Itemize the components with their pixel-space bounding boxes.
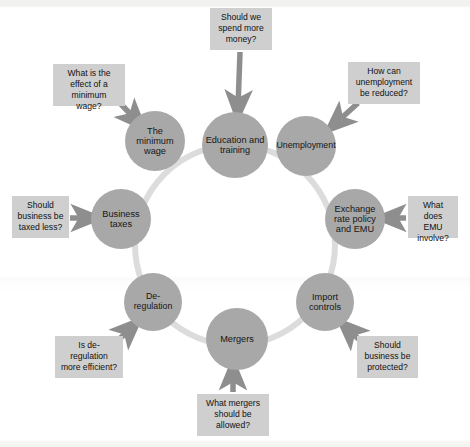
node-mergers[interactable]: Mergers: [206, 308, 268, 370]
question-box-de-regulation-efficient[interactable]: Is de-regulation more efficient?: [55, 336, 123, 378]
policy-cycle-diagram: Education and training Unemployment Exch…: [0, 0, 470, 447]
node-de-regulation[interactable]: De-regulation: [124, 273, 182, 331]
node-label-the-minimum-wage: The minimum wage: [125, 126, 185, 157]
node-label-mergers: Mergers: [217, 334, 257, 344]
node-label-business-taxes: Business taxes: [91, 209, 151, 230]
node-exchange-rate-policy-and-emu[interactable]: Exchange rate policy and EMU: [325, 189, 385, 249]
question-text-spend-more-money: Should we spend more money?: [218, 12, 263, 44]
question-box-reduce-unemployment[interactable]: How can unemployment be reduced?: [348, 62, 420, 104]
node-education-and-training[interactable]: Education and training: [202, 112, 268, 178]
question-text-effect-of-minimum-wage: What is the effect of a minimum wage?: [68, 68, 111, 111]
question-text-business-taxed-less: Should business be taxed less?: [18, 200, 64, 232]
node-unemployment[interactable]: Unemployment: [276, 116, 336, 176]
question-box-emu-involve[interactable]: What does EMU involve?: [408, 196, 458, 238]
node-label-unemployment: Unemployment: [273, 141, 338, 151]
node-business-taxes[interactable]: Business taxes: [91, 189, 151, 249]
question-box-business-taxed-less[interactable]: Should business be taxed less?: [12, 196, 69, 238]
question-box-effect-of-minimum-wage[interactable]: What is the effect of a minimum wage?: [53, 64, 125, 106]
question-text-reduce-unemployment: How can unemployment be reduced?: [356, 66, 412, 98]
node-label-exchange-rate-policy-and-emu: Exchange rate policy and EMU: [325, 204, 385, 235]
question-text-de-regulation-efficient: Is de-regulation more efficient?: [61, 340, 117, 372]
node-the-minimum-wage[interactable]: The minimum wage: [125, 111, 185, 171]
node-label-de-regulation: De-regulation: [124, 292, 182, 312]
arrow-to-unemployment: [336, 103, 358, 123]
question-text-emu-involve: What does EMU involve?: [417, 200, 449, 243]
arrow-to-education-and-training: [238, 52, 240, 107]
node-label-education-and-training: Education and training: [202, 135, 268, 156]
node-label-import-controls: Import controls: [296, 292, 354, 313]
question-box-spend-more-money[interactable]: Should we spend more money?: [210, 8, 272, 50]
question-box-mergers-allowed[interactable]: What mergers should be allowed?: [197, 394, 269, 436]
question-text-mergers-allowed: What mergers should be allowed?: [206, 398, 260, 430]
question-box-business-protected[interactable]: Should business be protected?: [357, 336, 418, 378]
question-text-business-protected: Should business be protected?: [365, 340, 411, 372]
node-import-controls[interactable]: Import controls: [296, 273, 354, 331]
